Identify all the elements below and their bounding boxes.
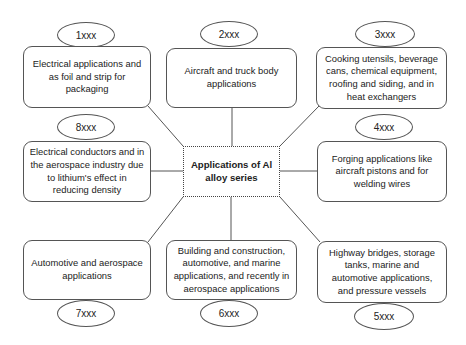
series-label-text: 2xxx — [219, 29, 240, 40]
description-box-7xxx: Automotive and aerospace applications — [23, 240, 151, 300]
series-label-8xxx: 8xxx — [57, 114, 115, 140]
description-text: Forging applications like aircraft pisto… — [323, 153, 441, 191]
description-box-8xxx: Electrical conductors and in the aerospa… — [23, 141, 151, 202]
series-label-3xxx: 3xxx — [355, 21, 415, 47]
description-text: Highway bridges, storage tanks, marine a… — [323, 247, 441, 297]
description-box-1xxx: Electrical applications and as foil and … — [23, 46, 151, 108]
description-text: Building and construction, automotive, a… — [172, 245, 291, 295]
description-text: Cooking utensils, beverage cans, chemica… — [319, 53, 444, 103]
central-topic-box: Applications of Al alloy series — [183, 146, 280, 197]
description-box-3xxx: Cooking utensils, beverage cans, chemica… — [316, 47, 447, 109]
series-label-6xxx: 5xxx6xxx — [200, 300, 258, 327]
description-text: Automotive and aerospace applications — [29, 257, 145, 282]
connector-5xxx — [280, 197, 320, 242]
series-label-text: 6xxx — [219, 308, 240, 319]
series-label-text: 3xxx — [375, 29, 396, 40]
connector-1xxx — [148, 106, 183, 146]
central-topic-label: Applications of Al alloy series — [190, 159, 273, 185]
series-label-text: 7xxx — [76, 308, 97, 319]
series-label-text: 5xxx — [374, 311, 395, 322]
description-text: Electrical applications and as foil and … — [29, 58, 145, 96]
description-box-5xxx: Highway bridges, storage tanks, marine a… — [317, 241, 447, 303]
description-box-6xxx: Building and construction, automotive, a… — [166, 240, 297, 300]
series-label-text: 8xxx — [76, 122, 97, 133]
description-box-4xxx: Forging applications like aircraft pisto… — [317, 141, 447, 202]
description-text: Aircraft and truck body applications — [172, 65, 291, 90]
description-box-2xxx: Aircraft and truck body applications — [166, 48, 297, 108]
series-label-5xxx: 5xxx — [354, 303, 414, 330]
series-label-2xxx: 2xxx — [200, 21, 258, 47]
series-label-7xxx: 7xxx — [57, 300, 115, 327]
series-label-text: 4xxx — [374, 122, 395, 133]
connector-7xxx — [148, 197, 183, 242]
series-label-4xxx: 4xxx — [355, 114, 413, 140]
description-text: Electrical conductors and in the aerospa… — [29, 146, 145, 196]
series-label-text: 1xxx — [76, 30, 97, 41]
series-label-1xxx: 1xxx — [57, 22, 115, 48]
connector-3xxx — [280, 106, 319, 146]
